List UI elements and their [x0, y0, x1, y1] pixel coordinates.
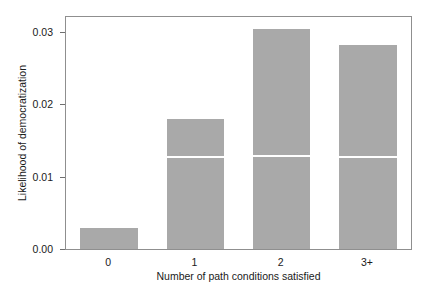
bar-chart-figure: Likelihood of democratization 0.00 0.01 …: [0, 0, 432, 298]
bar-reference-line-2: [253, 155, 310, 157]
plot-frame: [65, 16, 412, 250]
bar-0: [80, 228, 137, 249]
x-tick-label-0: 0: [105, 256, 111, 268]
bar-1: [167, 119, 224, 250]
y-axis: 0.00 0.01 0.02 0.03: [0, 16, 65, 250]
x-tick-label-2: 2: [278, 256, 284, 268]
bar-3: [339, 45, 396, 249]
y-tick-label-1: 0.01: [33, 171, 53, 183]
y-tick-label-3: 0.03: [33, 26, 53, 38]
plot-area: [66, 17, 411, 249]
y-tick-label-2: 0.02: [33, 98, 53, 110]
bar-reference-line-1: [167, 156, 224, 158]
x-axis-label: Number of path conditions satisfied: [65, 270, 412, 282]
x-tick-label-3: 3+: [361, 256, 373, 268]
y-tick-label-0: 0.00: [33, 243, 53, 255]
x-tick-label-1: 1: [191, 256, 197, 268]
bar-2: [253, 29, 310, 249]
bar-reference-line-3: [339, 156, 396, 158]
